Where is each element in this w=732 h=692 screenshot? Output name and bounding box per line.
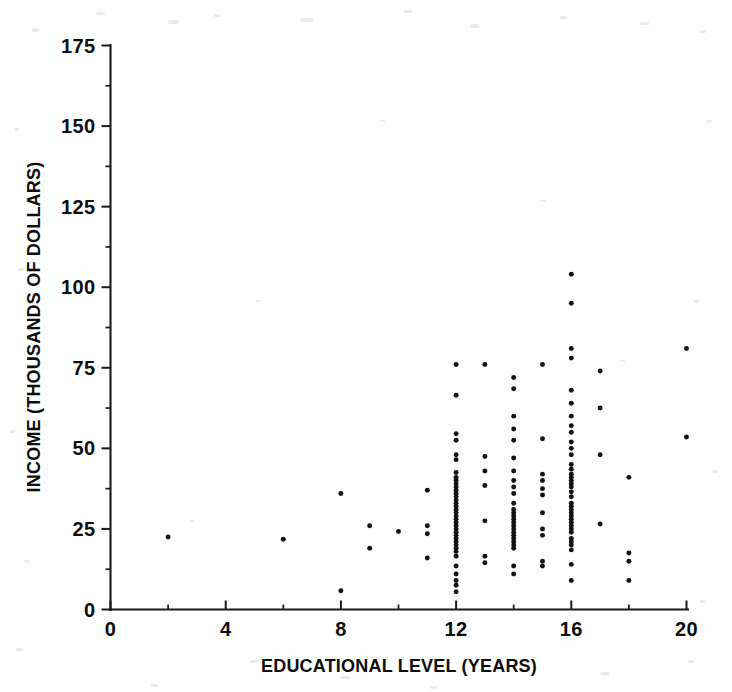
data-point (569, 430, 574, 435)
data-point (511, 501, 516, 506)
data-point (569, 446, 574, 451)
y-tick-label: 150 (61, 115, 96, 137)
data-point (454, 438, 459, 443)
data-point (482, 454, 487, 459)
data-point (511, 491, 516, 496)
data-point (338, 588, 343, 593)
data-point (540, 472, 545, 477)
x-tick-label: 20 (675, 618, 698, 640)
data-point (540, 362, 545, 367)
data-point (626, 559, 631, 564)
data-point (281, 537, 286, 542)
data-point (454, 470, 459, 475)
data-point (338, 491, 343, 496)
data-point (684, 346, 689, 351)
data-point (454, 393, 459, 398)
data-point (569, 452, 574, 457)
data-point (540, 436, 545, 441)
data-point (454, 362, 459, 367)
data-point (569, 346, 574, 351)
data-point (511, 546, 516, 551)
data-point (396, 529, 401, 534)
y-tick-label: 50 (72, 437, 95, 459)
data-point (540, 493, 545, 498)
data-point (598, 452, 603, 457)
scatter-plot-canvas: 0255075100125150175 048121620 EDUCATIONA… (0, 0, 732, 692)
data-point (454, 431, 459, 436)
data-point (569, 301, 574, 306)
data-point (569, 462, 574, 467)
data-point (569, 494, 574, 499)
data-point (569, 388, 574, 393)
data-point (166, 535, 171, 540)
data-point (540, 533, 545, 538)
x-axis-title: EDUCATIONAL LEVEL (YEARS) (261, 656, 537, 676)
x-tick-label: 8 (335, 618, 347, 640)
data-point (540, 486, 545, 491)
y-axis-title: INCOME (THOUSANDS OF DOLLARS) (24, 162, 44, 493)
x-tick-label: 4 (220, 618, 232, 640)
data-point (598, 406, 603, 411)
scatter-data-points (166, 272, 689, 594)
data-point (367, 523, 372, 528)
data-point (454, 589, 459, 594)
y-tick-label: 0 (84, 599, 96, 621)
data-point (482, 483, 487, 488)
data-point (482, 554, 487, 559)
data-point (626, 475, 631, 480)
data-point (482, 518, 487, 523)
data-point (540, 526, 545, 531)
y-tick-label: 75 (72, 357, 95, 379)
data-point (454, 572, 459, 577)
data-point (482, 362, 487, 367)
data-point (569, 485, 574, 490)
data-point (482, 468, 487, 473)
data-point (569, 401, 574, 406)
data-point (626, 551, 631, 556)
data-point (569, 423, 574, 428)
data-point (540, 478, 545, 483)
data-point (511, 386, 516, 391)
data-point (454, 564, 459, 569)
data-point (569, 547, 574, 552)
data-point (511, 456, 516, 461)
data-point (540, 510, 545, 515)
y-tick-label: 125 (61, 196, 96, 218)
data-point (569, 439, 574, 444)
data-point (569, 356, 574, 361)
data-point (569, 489, 574, 494)
y-tick-label: 100 (61, 276, 96, 298)
data-point (454, 554, 459, 559)
data-point (454, 452, 459, 457)
data-point (569, 272, 574, 277)
data-point (569, 530, 574, 535)
data-point (425, 523, 430, 528)
data-point (598, 522, 603, 527)
y-tick-label: 175 (61, 35, 96, 57)
data-point (511, 478, 516, 483)
data-point (425, 555, 430, 560)
data-point (511, 485, 516, 490)
data-point (454, 457, 459, 462)
data-point (454, 578, 459, 583)
data-point (511, 427, 516, 432)
data-point (626, 578, 631, 583)
x-axis-tick-labels: 048121620 (105, 618, 698, 640)
data-point (511, 468, 516, 473)
data-point (569, 467, 574, 472)
x-tick-label: 0 (105, 618, 117, 640)
data-point (569, 543, 574, 548)
data-point (540, 564, 545, 569)
y-tick-label: 25 (72, 518, 95, 540)
data-point (511, 564, 516, 569)
data-point (540, 559, 545, 564)
data-point (511, 438, 516, 443)
data-point (569, 578, 574, 583)
data-point (367, 546, 372, 551)
data-point (569, 414, 574, 419)
data-point (454, 549, 459, 554)
x-tick-label: 12 (445, 618, 468, 640)
data-point (569, 562, 574, 567)
data-point (425, 531, 430, 536)
data-point (598, 369, 603, 374)
